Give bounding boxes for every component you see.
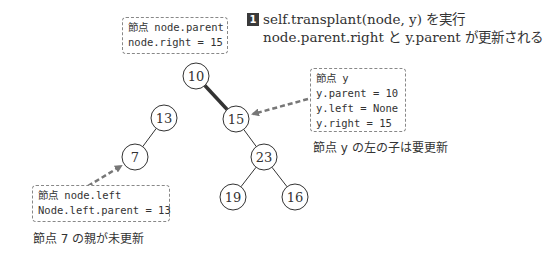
tree-node-15: 15	[223, 106, 249, 132]
tree-node-7: 7	[122, 144, 148, 170]
node-label: 15	[228, 112, 245, 127]
pointer-arrow-left-to-7	[88, 166, 121, 186]
edge-n23-n16	[272, 167, 287, 186]
tree-node-13: 13	[151, 105, 177, 131]
step-line-2: node.parent.right と y.parent が更新される	[247, 28, 543, 46]
caption-y-left: 節点 y の左の子は要更新	[313, 138, 448, 155]
step-line-1: self.transplant(node, y) を実行	[263, 11, 465, 27]
note-line: 節点 node.left	[38, 188, 164, 203]
node-label: 19	[225, 190, 242, 205]
tree-node-23: 23	[251, 144, 277, 170]
tree-node-19: 19	[220, 184, 246, 210]
note-line: Node.left.parent = 13	[38, 203, 164, 218]
note-node-y: 節点 y y.parent = 10 y.left = None y.right…	[310, 68, 406, 132]
caption-node7: 節点 7 の親が未更新	[33, 229, 144, 246]
note-line: node.right = 15	[128, 35, 222, 50]
note-line: 節点 y	[316, 71, 400, 86]
edge-n23-n19	[241, 167, 256, 186]
tree-node-10: 10	[183, 63, 209, 89]
edge-n13-n7	[143, 128, 156, 146]
node-label: 23	[256, 150, 273, 165]
note-line: y.left = None	[316, 101, 400, 116]
node-label: 7	[131, 150, 139, 165]
edge-n10-n15	[205, 86, 227, 110]
node-label: 16	[287, 190, 304, 205]
node-label: 10	[188, 69, 205, 84]
step-description: 1self.transplant(node, y) を実行 node.paren…	[247, 10, 543, 46]
node-label: 13	[156, 111, 173, 126]
note-node-parent: 節点 node.parent node.right = 15	[122, 17, 228, 54]
note-line: y.right = 15	[316, 116, 400, 131]
pointer-arrow-y-to-15	[253, 99, 308, 114]
note-line: 節点 node.parent	[128, 20, 222, 35]
note-node-left: 節点 node.left Node.left.parent = 13	[32, 185, 170, 222]
note-line: y.parent = 10	[316, 86, 400, 101]
tree-node-16: 16	[282, 184, 308, 210]
step-number-badge: 1	[247, 13, 259, 26]
edge-n15-n23	[244, 129, 257, 146]
